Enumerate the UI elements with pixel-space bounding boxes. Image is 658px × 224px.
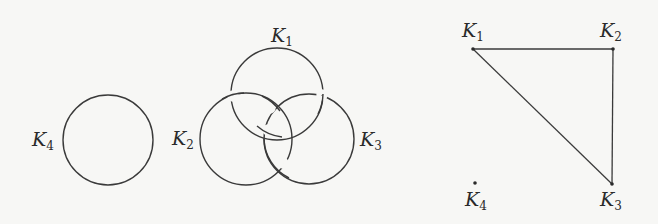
vertex-k3 bbox=[610, 182, 614, 186]
edge-k2-k3 bbox=[612, 49, 613, 184]
linking-graph: K1 K2 K3 K4 bbox=[461, 19, 622, 213]
edge-k1-k3 bbox=[473, 49, 612, 184]
crossing-gap bbox=[319, 92, 325, 98]
figure: K1 K2 K3 K4 K1 K2 K3 K4 bbox=[0, 0, 658, 224]
label-k3: K3 bbox=[359, 128, 382, 153]
vertex-label-k3: K3 bbox=[599, 188, 622, 213]
crossing-gap bbox=[267, 105, 273, 111]
component-k4-circle bbox=[63, 95, 153, 185]
vertex-label-k1: K1 bbox=[461, 19, 484, 44]
link-diagram: K1 K2 K3 K4 bbox=[31, 24, 382, 185]
crossing-gap bbox=[280, 160, 286, 166]
figure-canvas: K1 K2 K3 K4 K1 K2 K3 K4 bbox=[0, 0, 658, 224]
vertex-label-k2: K2 bbox=[599, 19, 622, 44]
vertex-k2 bbox=[611, 47, 615, 51]
label-k1: K1 bbox=[270, 24, 293, 49]
vertex-k4 bbox=[473, 181, 477, 185]
vertex-k1 bbox=[471, 47, 475, 51]
label-k4: K4 bbox=[31, 128, 54, 153]
label-k2: K2 bbox=[171, 127, 194, 152]
vertex-label-k4: K4 bbox=[464, 188, 487, 213]
